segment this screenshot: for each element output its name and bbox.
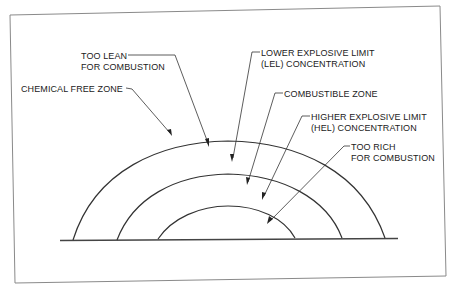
label-lel: LOWER EXPLOSIVE LIMIT (LEL) CONCENTRATIO… (261, 48, 377, 69)
ground-baseline (60, 239, 398, 241)
label-hel: HIGHER EXPLOSIVE LIMIT (HEL) CONCENTRATI… (311, 112, 429, 133)
leader-chemical-free-zone (126, 88, 170, 133)
arrowhead-combustible-zone (246, 177, 250, 185)
leader-combustible-zone (248, 93, 283, 182)
outer-arc (73, 141, 385, 240)
label-too-lean: TOO LEAN FOR COMBUSTION (81, 51, 165, 72)
label-too-rich: TOO RICH FOR COMBUSTION (351, 142, 435, 163)
label-chemical-free-zone: CHEMICAL FREE ZONE (21, 84, 123, 94)
hel-arc (158, 206, 295, 239)
leader-hel (264, 116, 310, 196)
arrowhead-chemical-free-zone (167, 129, 172, 136)
arrowhead-too-rich (267, 216, 273, 224)
arrowhead-hel (262, 192, 266, 200)
lel-arc (117, 174, 342, 240)
label-combustible-zone: COMBUSTIBLE ZONE (284, 89, 378, 99)
combustion-zones-diagram: CHEMICAL FREE ZONE TOO LEAN FOR COMBUSTI… (0, 0, 452, 292)
